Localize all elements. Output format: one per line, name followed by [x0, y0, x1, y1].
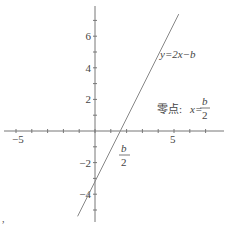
x-tick-label: 5: [170, 133, 176, 145]
stray-comma: ,: [2, 213, 5, 224]
zero-frac-den: 2: [202, 109, 208, 121]
y-tick-label: 6: [86, 30, 92, 42]
y-tick-label: 2: [86, 93, 92, 105]
axis-frac-num: b: [121, 142, 127, 154]
y-tick-label: −4: [79, 188, 91, 200]
axis-frac-den: 2: [121, 156, 127, 168]
zero-point-prefix: 零点:: [157, 103, 182, 115]
zero-frac-num: b: [202, 95, 208, 107]
x-tick-label: −5: [12, 133, 24, 145]
y-tick-label: −2: [79, 157, 91, 169]
graph: −55642−2−4 y=2x−b 零点: x= b 2 b 2 ,: [0, 0, 229, 225]
y-tick-label: 4: [86, 62, 92, 74]
zero-point-var: x=: [189, 103, 202, 115]
function-line: [78, 14, 179, 216]
line-label: y=2x−b: [159, 48, 196, 60]
